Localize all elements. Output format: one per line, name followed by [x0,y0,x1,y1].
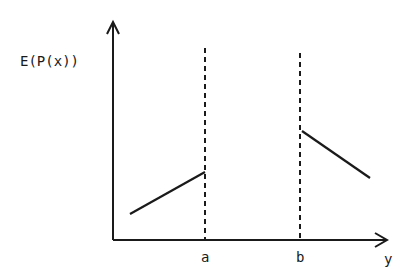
marker-b-label: b [296,249,304,265]
right-segment [302,131,370,178]
x-axis-label: y [384,251,392,267]
diagram-canvas: E(P(x)) a b y [0,0,413,279]
left-segment [130,172,205,214]
marker-a-label: a [201,249,209,265]
y-axis-label: E(P(x)) [20,53,79,69]
